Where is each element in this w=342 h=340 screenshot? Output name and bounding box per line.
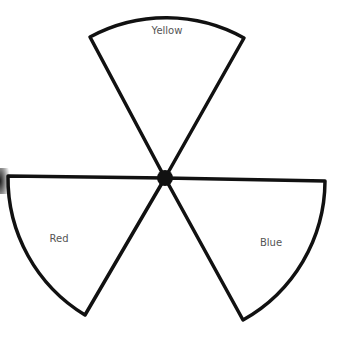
spinner-diagram: [0, 0, 342, 340]
sector-red: [8, 176, 165, 315]
center-hub: [157, 170, 173, 186]
label-red: Red: [50, 233, 69, 244]
sector-blue: [165, 178, 325, 320]
label-blue: Blue: [260, 237, 282, 248]
label-yellow: Yellow: [152, 25, 183, 36]
sector-yellow: [90, 18, 244, 178]
